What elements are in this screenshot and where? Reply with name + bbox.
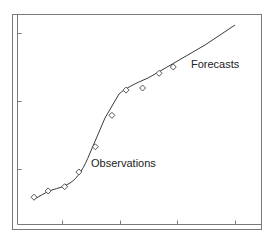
diamond-marker [140,85,146,91]
chart-canvas [0,0,276,237]
forecasts-label: Forecasts [191,58,239,70]
diamond-marker [31,194,37,200]
diamond-marker [156,70,162,76]
observation-markers [31,64,176,200]
observations-label: Observations [91,157,156,169]
diamond-marker [109,112,115,118]
forecast-line [33,25,235,200]
outer-frame [13,15,262,230]
x-ticks [63,221,236,225]
diamond-marker [76,169,82,175]
y-ticks [18,34,22,170]
